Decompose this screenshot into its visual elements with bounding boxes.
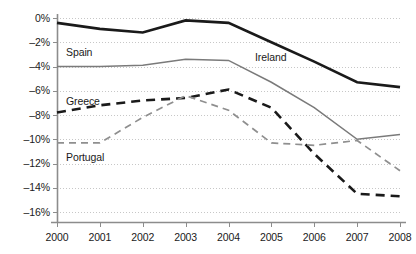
x-axis-label: 2008: [376, 232, 416, 243]
y-axis-label: –8%: [29, 110, 50, 121]
series-label-spain: Spain: [66, 47, 92, 58]
series-line-spain: [57, 59, 400, 139]
x-axis-label: 2006: [290, 232, 338, 243]
x-axis-label: 2001: [76, 232, 124, 243]
series-label-ireland: Ireland: [255, 52, 286, 63]
y-axis-label: –16%: [24, 207, 50, 218]
y-axis-label: –10%: [24, 134, 50, 145]
y-axis-label: –2%: [29, 37, 50, 48]
y-axis-ticks: [53, 19, 57, 213]
x-axis-label: 2005: [247, 232, 295, 243]
y-axis-label: –4%: [29, 61, 50, 72]
y-axis-label: –6%: [29, 85, 50, 96]
series-label-greece: Greece: [66, 96, 100, 107]
x-axis-label: 2007: [333, 232, 381, 243]
y-axis-label: –12%: [24, 158, 50, 169]
y-axis-label: –14%: [24, 182, 50, 193]
x-axis-label: 2002: [119, 232, 167, 243]
y-axis-label: 0%: [35, 13, 50, 24]
series-line-ireland: [57, 20, 400, 87]
gridlines: [57, 19, 400, 213]
x-axis-label: 2000: [33, 232, 81, 243]
x-axis-label: 2004: [205, 232, 253, 243]
x-axis-label: 2003: [162, 232, 210, 243]
series-label-portugal: Portugal: [66, 152, 104, 163]
series-lines: [57, 20, 400, 196]
series-line-greece: [57, 90, 400, 197]
